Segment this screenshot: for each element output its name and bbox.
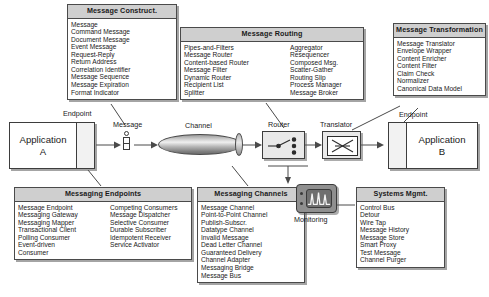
catalog-column: Message Command Message Document Message… xyxy=(71,21,130,96)
catalog-column: Message Translator Envelope Wrapper Cont… xyxy=(397,40,462,93)
message-label: Message xyxy=(113,121,142,129)
pattern-item: Durable Subscriber xyxy=(110,226,177,234)
pattern-item: Dead Letter Channel xyxy=(201,241,267,249)
pattern-item: Aggregator xyxy=(290,44,342,52)
catalog-message-construction[interactable]: Message Construct. Message Command Messa… xyxy=(67,4,177,100)
pattern-item: Message Dispatcher xyxy=(110,211,177,219)
pattern-item: Normalizer xyxy=(397,77,462,85)
pattern-item: Splitter xyxy=(184,89,280,97)
catalog-title: Messaging Channels xyxy=(198,188,304,202)
pattern-item: Messaging Bridge xyxy=(201,264,267,272)
catalog-column: Message Endpoint Messaging Gateway Messa… xyxy=(18,204,102,257)
pattern-item: Message Broker xyxy=(290,89,342,97)
pattern-item: Message Expiration xyxy=(71,81,130,89)
translator-node[interactable] xyxy=(322,131,361,159)
monitoring-label: Monitoring xyxy=(294,215,328,224)
pattern-item: Message Channel xyxy=(201,204,267,212)
catalog-title: Message Transformation xyxy=(394,24,485,38)
pattern-item: Point-to-Point Channel xyxy=(201,211,267,219)
catalog-systems-management[interactable]: Systems Mgmt. Control Bus Detour Wire Ta… xyxy=(356,187,445,268)
pattern-item: Correlation Identifier xyxy=(71,66,130,74)
application-a[interactable]: Application A xyxy=(9,122,95,169)
pattern-item: Message Sequence xyxy=(71,73,130,81)
pattern-item: Message Filter xyxy=(184,66,280,74)
monitoring-node[interactable] xyxy=(296,184,337,213)
catalog-title: Messaging Endpoints xyxy=(15,188,191,202)
pattern-item: Channel Purger xyxy=(360,256,409,264)
endpoint-a[interactable] xyxy=(76,123,94,168)
pattern-item: Message Bus xyxy=(201,272,267,280)
pattern-item: Recipient List xyxy=(184,81,280,89)
monitor-led-top xyxy=(300,192,303,195)
catalog-column: Competing Consumers Message Dispatcher S… xyxy=(110,204,177,257)
application-a-name: Application A xyxy=(10,123,76,168)
endpoint-b[interactable] xyxy=(389,123,407,168)
catalog-title: Message Routing xyxy=(181,28,363,42)
pattern-item: Control Bus xyxy=(360,204,409,212)
pattern-item: Claim Check xyxy=(397,70,462,78)
pattern-item: Wire Tap xyxy=(360,219,409,227)
message-head-circle xyxy=(124,131,129,136)
router-icon xyxy=(263,132,306,160)
pattern-item: Polling Consumer xyxy=(18,234,102,242)
pattern-item: Dynamic Router xyxy=(184,74,280,82)
catalog-title: Systems Mgmt. xyxy=(357,188,444,202)
pattern-item: Message Translator xyxy=(397,40,462,48)
endpoint-left-label: Endpoint xyxy=(63,110,91,118)
pattern-item: Messaging Mapper xyxy=(18,219,102,227)
catalog-column: Pipes-and-Filters Message Router Content… xyxy=(184,44,280,97)
pattern-item: Smart Proxy xyxy=(360,241,409,249)
catalog-column: Message Channel Point-to-Point Channel P… xyxy=(201,204,267,279)
channel-pipe xyxy=(158,134,242,155)
pattern-item: Event-driven xyxy=(18,241,102,249)
pattern-item: Channel Adapter xyxy=(201,256,267,264)
pattern-item: Content-based Router xyxy=(184,59,280,67)
pattern-item: Message xyxy=(71,21,130,29)
pattern-item: Service Activator xyxy=(110,241,177,249)
channel-pipe-body xyxy=(158,134,242,155)
pattern-item: Consumer xyxy=(18,249,102,257)
pattern-item: Composed Msg. xyxy=(290,59,342,67)
pattern-item: Datatype Channel xyxy=(201,226,267,234)
catalog-column: Aggregator Resequencer Composed Msg. Sca… xyxy=(290,44,342,97)
diagram-canvas: Message Construct. Message Command Messa… xyxy=(0,0,489,297)
pattern-item: Message History xyxy=(360,226,409,234)
pattern-item: Selective Consumer xyxy=(110,219,177,227)
pattern-item: Transactional Client xyxy=(18,226,102,234)
monitor-led-bottom xyxy=(300,202,303,205)
waveform-icon xyxy=(307,190,331,207)
channel-label: Channel xyxy=(185,122,212,130)
catalog-message-transformation[interactable]: Message Transformation Message Translato… xyxy=(393,23,486,96)
pattern-item: Message Endpoint xyxy=(18,204,102,212)
application-b-line2: B xyxy=(439,146,445,158)
application-b-line1: Application xyxy=(419,134,466,146)
pattern-item: Content Enricher xyxy=(397,55,462,63)
router-label: Router xyxy=(268,121,290,129)
pattern-item: Messaging Gateway xyxy=(18,211,102,219)
pattern-item: Envelope Wrapper xyxy=(397,47,462,55)
catalog-messaging-endpoints[interactable]: Messaging Endpoints Message Endpoint Mes… xyxy=(14,187,192,260)
pattern-item: Guaranteed Delivery xyxy=(201,249,267,257)
pattern-item: Event Message xyxy=(71,43,130,51)
catalog-messaging-channels[interactable]: Messaging Channels Message Channel Point… xyxy=(197,187,305,283)
translator-label: Translator xyxy=(320,121,352,129)
pattern-item: Detour xyxy=(360,211,409,219)
message-icon xyxy=(121,131,133,151)
application-a-line2: A xyxy=(40,146,46,158)
pattern-item: Content Filter xyxy=(397,62,462,70)
catalog-title: Message Construct. xyxy=(68,5,176,19)
application-b[interactable]: Application B xyxy=(388,122,478,169)
pattern-item: Idempotent Receiver xyxy=(110,234,177,242)
translator-icon xyxy=(323,132,362,160)
channel-pipe-cap xyxy=(235,133,243,156)
catalog-message-routing[interactable]: Message Routing Pipes-and-Filters Messag… xyxy=(180,27,364,100)
pattern-item: Test Message xyxy=(360,249,409,257)
pattern-item: Resequencer xyxy=(290,51,342,59)
router-node[interactable] xyxy=(262,131,305,159)
pattern-item: Document Message xyxy=(71,36,130,44)
message-body-square-2 xyxy=(123,143,130,150)
pattern-item: Request-Reply xyxy=(71,51,130,59)
pattern-item: Format Indicator xyxy=(71,89,130,97)
pattern-item: Command Message xyxy=(71,28,130,36)
endpoint-right-label: Endpoint xyxy=(399,111,427,119)
